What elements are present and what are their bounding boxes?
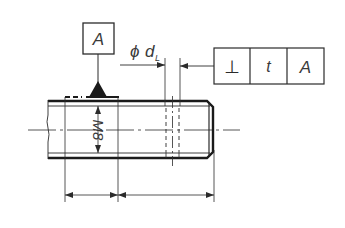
datum-feature-symbol: A <box>65 23 119 97</box>
datum-triangle-icon <box>89 81 107 97</box>
break-line <box>47 100 49 159</box>
shaft <box>47 100 213 159</box>
datum-reference: A <box>299 58 311 77</box>
tolerance-value: t <box>266 58 271 75</box>
diameter-variable: d <box>145 42 155 61</box>
thread-dimension: M8 <box>90 106 107 153</box>
diameter-symbol: ϕ <box>130 42 139 61</box>
cross-hole <box>165 58 180 166</box>
length-dimensions <box>65 97 214 202</box>
feature-control-frame: ⊥ t A <box>180 48 324 84</box>
diameter-callout: ϕ d L <box>120 42 165 65</box>
thread-label: M8 <box>90 120 107 141</box>
shaft-outline <box>48 101 213 158</box>
diameter-subscript: L <box>155 53 160 63</box>
datum-label: A <box>92 30 104 49</box>
perpendicularity-icon: ⊥ <box>224 56 240 77</box>
technical-drawing: A ϕ d L ⊥ <box>0 0 345 228</box>
